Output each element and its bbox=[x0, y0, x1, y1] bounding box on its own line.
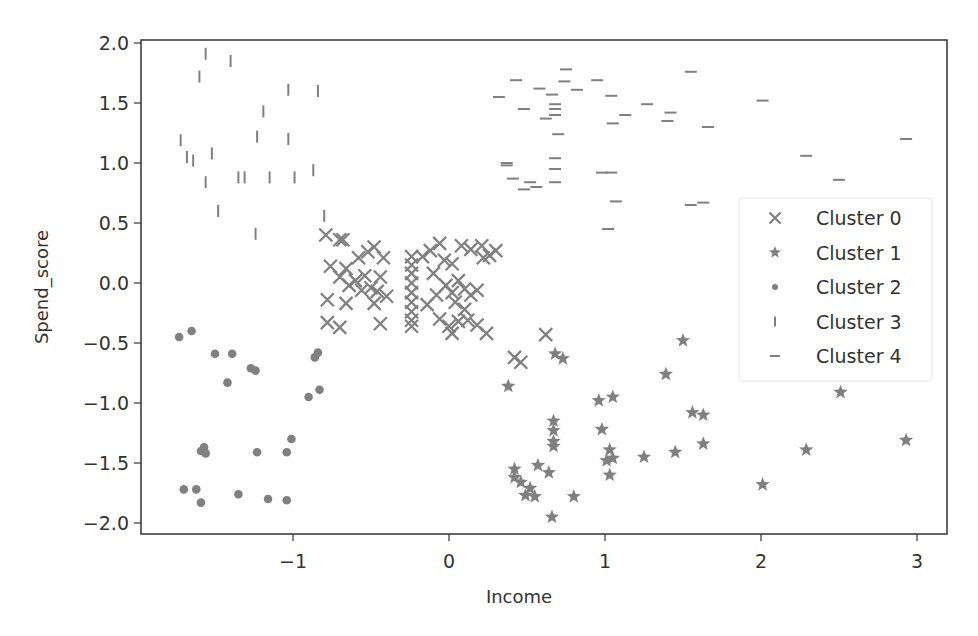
marker-x-icon bbox=[452, 274, 465, 287]
marker-circle-icon bbox=[282, 448, 291, 457]
x-tick-label: 3 bbox=[911, 550, 923, 572]
legend-label: Cluster 3 bbox=[816, 311, 902, 333]
marker-circle-icon bbox=[228, 350, 237, 359]
y-tick-label: −1.5 bbox=[83, 452, 129, 474]
marker-circle-icon bbox=[234, 490, 243, 499]
marker-x-icon bbox=[449, 296, 462, 309]
marker-x-icon bbox=[489, 244, 502, 257]
marker-circle-icon bbox=[175, 333, 184, 342]
marker-star-icon bbox=[668, 445, 682, 459]
y-tick-label: −2.0 bbox=[83, 512, 129, 534]
marker-x-icon bbox=[433, 237, 446, 250]
y-tick-label: 2.0 bbox=[99, 32, 129, 54]
marker-circle-icon bbox=[253, 448, 262, 457]
series-cluster-2 bbox=[175, 327, 324, 507]
marker-circle-icon bbox=[187, 327, 196, 336]
marker-x-icon bbox=[427, 267, 440, 280]
marker-circle-icon bbox=[304, 393, 313, 402]
y-tick-label: 1.5 bbox=[99, 92, 129, 114]
x-tick-label: −1 bbox=[279, 550, 307, 572]
legend-label: Cluster 0 bbox=[816, 207, 902, 229]
series-cluster-0 bbox=[319, 229, 552, 369]
marker-circle-icon bbox=[264, 495, 273, 504]
marker-x-icon bbox=[343, 279, 356, 292]
marker-circle-icon bbox=[315, 386, 324, 395]
marker-star-icon bbox=[659, 367, 673, 381]
marker-circle-icon bbox=[197, 498, 206, 507]
marker-x-icon bbox=[471, 284, 484, 297]
marker-star-icon bbox=[531, 458, 545, 472]
marker-circle-icon bbox=[251, 366, 260, 375]
marker-star-icon bbox=[833, 385, 847, 399]
series-cluster-3 bbox=[181, 48, 325, 240]
marker-star-icon bbox=[606, 390, 620, 404]
legend-label: Cluster 1 bbox=[816, 242, 902, 264]
marker-circle-icon bbox=[772, 284, 778, 290]
marker-star-icon bbox=[685, 405, 699, 419]
marker-x-icon bbox=[321, 316, 334, 329]
marker-x-icon bbox=[319, 229, 332, 242]
y-tick-label: 1.0 bbox=[99, 152, 129, 174]
marker-circle-icon bbox=[282, 496, 291, 505]
y-tick-label: 0.5 bbox=[99, 212, 129, 234]
x-axis: −10123 bbox=[279, 534, 923, 572]
marker-star-icon bbox=[567, 489, 581, 503]
legend-label: Cluster 4 bbox=[816, 345, 902, 367]
marker-x-icon bbox=[368, 297, 381, 310]
marker-star-icon bbox=[603, 468, 617, 482]
marker-x-icon bbox=[458, 303, 471, 316]
marker-circle-icon bbox=[287, 435, 296, 444]
marker-star-icon bbox=[799, 442, 813, 456]
marker-x-icon bbox=[340, 297, 353, 310]
marker-star-icon bbox=[899, 433, 913, 447]
marker-star-icon bbox=[501, 379, 515, 393]
y-axis-label: Spend_score bbox=[31, 230, 53, 344]
marker-x-icon bbox=[446, 286, 459, 299]
marker-x-icon bbox=[480, 327, 493, 340]
marker-circle-icon bbox=[211, 350, 220, 359]
marker-star-icon bbox=[696, 408, 710, 422]
x-tick-label: 0 bbox=[443, 550, 455, 572]
marker-circle-icon bbox=[314, 348, 323, 357]
y-tick-label: −0.5 bbox=[83, 332, 129, 354]
marker-star-icon bbox=[545, 510, 559, 524]
marker-x-icon bbox=[377, 251, 390, 264]
marker-x-icon bbox=[475, 239, 488, 252]
marker-star-icon bbox=[542, 465, 556, 479]
marker-x-icon bbox=[333, 321, 346, 334]
marker-x-icon bbox=[340, 262, 353, 275]
marker-circle-icon bbox=[223, 378, 232, 387]
marker-x-icon bbox=[514, 356, 527, 369]
marker-x-icon bbox=[421, 298, 434, 311]
marker-star-icon bbox=[592, 393, 606, 407]
y-tick-label: −1.0 bbox=[83, 392, 129, 414]
marker-circle-icon bbox=[180, 485, 189, 494]
legend-label: Cluster 2 bbox=[816, 276, 902, 298]
marker-star-icon bbox=[676, 333, 690, 347]
marker-x-icon bbox=[374, 317, 387, 330]
x-tick-label: 2 bbox=[755, 550, 767, 572]
marker-star-icon bbox=[603, 442, 617, 456]
x-axis-label: Income bbox=[486, 586, 552, 607]
marker-x-icon bbox=[416, 250, 429, 263]
marker-x-icon bbox=[321, 293, 334, 306]
legend: Cluster 0Cluster 1Cluster 2Cluster 3Clus… bbox=[739, 198, 932, 381]
y-axis: −2.0−1.5−1.0−0.50.00.51.01.52.0 bbox=[83, 32, 141, 534]
marker-circle-icon bbox=[201, 449, 210, 458]
marker-x-icon bbox=[433, 313, 446, 326]
scatter-chart: −10123 −2.0−1.5−1.0−0.50.00.51.01.52.0 I… bbox=[0, 0, 978, 636]
marker-x-icon bbox=[539, 328, 552, 341]
y-tick-label: 0.0 bbox=[99, 272, 129, 294]
marker-star-icon bbox=[696, 436, 710, 450]
marker-star-icon bbox=[595, 422, 609, 436]
marker-x-icon bbox=[424, 244, 437, 257]
marker-star-icon bbox=[755, 477, 769, 491]
x-tick-label: 1 bbox=[599, 550, 611, 572]
marker-circle-icon bbox=[192, 485, 201, 494]
marker-star-icon bbox=[637, 450, 651, 464]
